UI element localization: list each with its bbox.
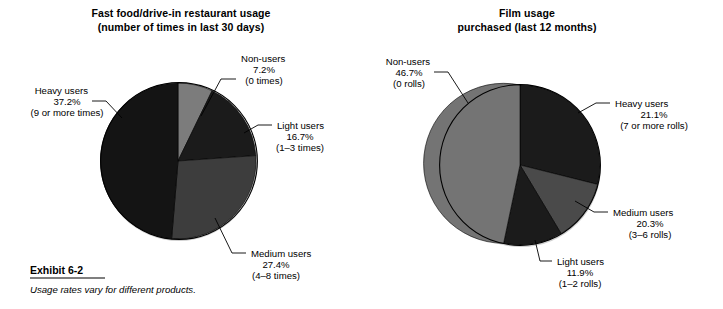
chart2-title-line2: purchased (last 12 months) <box>457 21 596 33</box>
pie2-slice-non-users <box>424 83 520 243</box>
label-medium-users-detail: (4–8 times) <box>252 270 300 281</box>
chart-fast-food: Fast food/drive-in restaurant usage (num… <box>30 7 324 281</box>
pie-slice-medium-users <box>172 156 256 239</box>
label2-non-users-name: Non-users <box>386 56 430 67</box>
chart2-title-line1: Film usage <box>499 7 555 19</box>
label-non-users-name: Non-users <box>241 53 285 64</box>
label-light-users-percent: 16.7% <box>286 131 314 142</box>
label-light-users-detail: (1–3 times) <box>276 142 324 153</box>
label2-medium-users-percent: 20.3% <box>636 218 664 229</box>
label2-heavy-users-detail: (7 or more rolls) <box>620 120 688 131</box>
leader2-line-heavy-users <box>578 103 610 113</box>
label2-medium-users-detail: (3–6 rolls) <box>629 229 672 240</box>
figure-root: Fast food/drive-in restaurant usage (num… <box>0 0 723 309</box>
label-heavy-users-percent: 37.2% <box>53 96 81 107</box>
exhibit-title: Exhibit 6-2 <box>30 264 83 276</box>
label-non-users-detail: (0 times) <box>245 75 282 86</box>
label2-heavy-users-name: Heavy users <box>615 98 669 109</box>
label2-non-users-detail: (0 rolls) <box>393 78 425 89</box>
label2-medium-users-name: Medium users <box>613 207 673 218</box>
pie-slice-heavy-users <box>100 83 178 239</box>
usage-rates-figure: Fast food/drive-in restaurant usage (num… <box>0 0 723 309</box>
label-heavy-users-detail: (9 or more times) <box>30 107 103 118</box>
label-medium-users-percent: 27.4% <box>262 259 290 270</box>
label-non-users-percent: 7.2% <box>253 64 275 75</box>
exhibit-caption: Usage rates vary for different products. <box>30 284 196 295</box>
label2-heavy-users-percent: 21.1% <box>640 109 668 120</box>
label2-non-users-percent: 46.7% <box>395 67 423 78</box>
label-medium-users-name: Medium users <box>251 248 311 259</box>
chart-film-usage: Film usage purchased (last 12 months) No… <box>386 7 688 289</box>
label2-light-users-detail: (1–2 rolls) <box>559 278 602 289</box>
label-heavy-users-name: Heavy users <box>35 85 89 96</box>
label2-light-users-percent: 11.9% <box>567 267 594 278</box>
chart-title-line2: (number of times in last 30 days) <box>98 21 265 33</box>
label-light-users-name: Light users <box>277 120 324 131</box>
chart-title-line1: Fast food/drive-in restaurant usage <box>91 7 270 19</box>
label2-light-users-name: Light users <box>557 256 604 267</box>
exhibit-caption-block: Exhibit 6-2 Usage rates vary for differe… <box>30 264 196 295</box>
